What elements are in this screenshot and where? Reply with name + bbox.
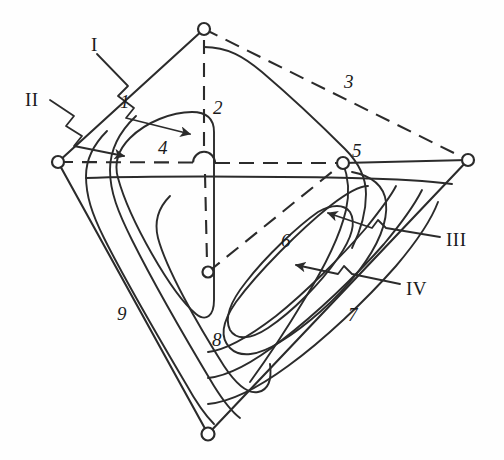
leader-II-line (50, 100, 124, 156)
outline-edge-top-left (58, 29, 204, 162)
dashed-vertical-lower (205, 174, 207, 262)
crossover-hop-arc (193, 152, 215, 163)
conductor-outer-left-wrap (86, 131, 214, 424)
label-8: 8 (212, 330, 222, 349)
dashed-construction-lines (58, 29, 468, 272)
conductor-bottom-band-1 (208, 202, 438, 404)
label-4: 4 (158, 138, 168, 157)
conductor-horizontal-mid-chord (86, 177, 452, 185)
schematic-diagram: 1 2 3 4 5 6 7 8 9 I II III IV (0, 0, 504, 460)
label-2: 2 (213, 98, 223, 117)
label-5: 5 (352, 141, 362, 160)
node-top[interactable] (198, 23, 210, 35)
conductor-right-loop-inner (228, 206, 353, 337)
dashed-horizontal-left (58, 162, 193, 163)
label-7: 7 (348, 305, 358, 324)
label-III: III (446, 230, 466, 249)
label-1: 1 (120, 92, 130, 111)
leader-I-line (97, 54, 190, 134)
label-3: 3 (344, 72, 354, 91)
label-IV: IV (406, 279, 427, 298)
label-9: 9 (117, 304, 127, 323)
callout-leader-lines (50, 54, 440, 284)
node-5[interactable] (337, 157, 349, 169)
outline-edge-node5-right (343, 160, 468, 163)
outline-edge-bottom-left (58, 162, 208, 434)
label-I: I (91, 35, 98, 54)
schematic-canvas (0, 0, 504, 460)
node-left[interactable] (52, 156, 64, 168)
conductor-right-loop-outer (224, 172, 387, 354)
node-center[interactable] (203, 267, 214, 278)
label-6: 6 (281, 231, 291, 250)
label-II: II (25, 90, 39, 109)
node-right[interactable] (462, 154, 474, 166)
node-bottom[interactable] (202, 428, 215, 441)
